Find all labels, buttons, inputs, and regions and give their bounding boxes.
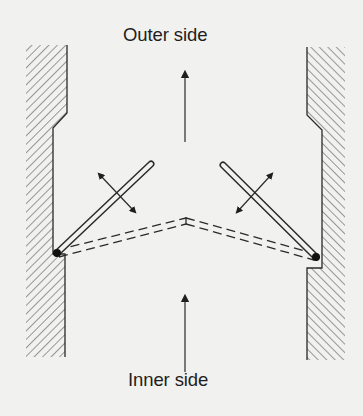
diagram-canvas [0,0,363,416]
right-wall [307,47,345,360]
left-pivot-icon [53,249,61,257]
right-pivot-icon [312,253,320,261]
flap-valve-diagram: Outer side Inner side [0,0,363,416]
right-flap [223,165,320,261]
left-wall [26,45,67,357]
inner-side-label: Inner side [128,369,208,391]
outer-side-label: Outer side [123,24,207,46]
